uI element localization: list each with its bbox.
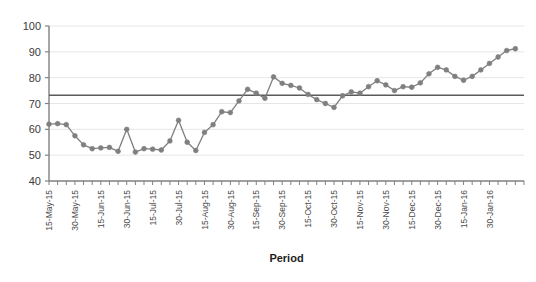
data-point (288, 83, 293, 88)
data-point (375, 78, 380, 83)
chart-container: 40506070809010015-May-1530-May-1515-Jun-… (0, 0, 536, 282)
data-point (314, 97, 319, 102)
x-tick-label-15: 30-Dec-15 (433, 190, 443, 230)
data-point (81, 142, 86, 147)
data-point (358, 91, 363, 96)
x-tick-label-13: 30-Nov-15 (381, 190, 391, 230)
data-point (297, 86, 302, 91)
data-point (245, 87, 250, 92)
x-tick-label-6: 15-Aug-15 (200, 190, 210, 230)
data-point (453, 74, 458, 79)
y-tick-label-100: 100 (23, 20, 41, 32)
data-point (150, 147, 155, 152)
data-point (349, 89, 354, 94)
data-point (444, 68, 449, 73)
x-tick-label-10: 15-Oct-15 (303, 190, 313, 228)
data-point (228, 110, 233, 115)
data-point (340, 93, 345, 98)
data-point (64, 122, 69, 127)
data-point (306, 92, 311, 97)
x-tick-label-5: 30-Jul-15 (174, 190, 184, 226)
data-point (470, 74, 475, 79)
data-point (263, 96, 268, 101)
data-point (392, 88, 397, 93)
gridlines (49, 26, 524, 155)
data-point (254, 91, 259, 96)
data-point (332, 105, 337, 110)
data-point (280, 81, 285, 86)
data-point (435, 65, 440, 70)
x-tick-label-7: 30-Aug-15 (226, 190, 236, 230)
data-point (142, 146, 147, 151)
y-tick-label-50: 50 (29, 149, 41, 161)
x-tick-label-1: 30-May-15 (70, 190, 80, 231)
series-line (49, 49, 515, 152)
x-axis-title: Period (269, 252, 303, 264)
data-point (383, 83, 388, 88)
data-point (55, 121, 60, 126)
line-chart-plot: 40506070809010015-May-1530-May-1515-Jun-… (0, 0, 536, 282)
x-tick-label-11: 30-Oct-15 (329, 190, 339, 228)
y-tick-label-70: 70 (29, 98, 41, 110)
data-point (47, 122, 52, 127)
data-point (487, 61, 492, 66)
data-point (496, 55, 501, 60)
data-point (98, 146, 103, 151)
x-tick-label-17: 30-Jan-16 (485, 190, 495, 229)
x-tick-label-16: 15-Jan-16 (459, 190, 469, 229)
series-markers (47, 46, 518, 154)
x-axis-ticks: 15-May-1530-May-1515-Jun-1530-Jun-1515-J… (44, 181, 524, 231)
data-point (107, 145, 112, 150)
data-point (176, 118, 181, 123)
data-point (478, 68, 483, 73)
data-point (409, 85, 414, 90)
x-tick-label-9: 30-Sep-15 (277, 190, 287, 230)
data-point (202, 130, 207, 135)
x-tick-label-8: 15-Sep-15 (251, 190, 261, 230)
data-point (219, 109, 224, 114)
data-point (133, 150, 138, 155)
y-tick-label-80: 80 (29, 72, 41, 84)
data-point (427, 71, 432, 76)
data-point (168, 139, 173, 144)
x-tick-label-14: 15-Dec-15 (407, 190, 417, 230)
data-point (211, 122, 216, 127)
data-point (159, 148, 164, 153)
data-point (237, 99, 242, 104)
y-tick-label-60: 60 (29, 123, 41, 135)
x-tick-label-0: 15-May-15 (44, 190, 54, 231)
data-point (461, 78, 466, 83)
y-axis-ticks: 405060708090100 (23, 20, 49, 187)
data-point (513, 46, 518, 51)
data-point (366, 84, 371, 89)
x-tick-label-2: 15-Jun-15 (96, 190, 106, 229)
x-tick-label-4: 15-Jul-15 (148, 190, 158, 226)
data-point (185, 140, 190, 145)
data-point (418, 80, 423, 85)
data-point (401, 84, 406, 89)
data-point (323, 101, 328, 106)
y-tick-label-90: 90 (29, 46, 41, 58)
data-point (504, 48, 509, 53)
data-point (271, 74, 276, 79)
data-point (124, 127, 129, 132)
data-point (116, 149, 121, 154)
x-tick-label-3: 30-Jun-15 (122, 190, 132, 229)
data-point (193, 148, 198, 153)
y-tick-label-40: 40 (29, 175, 41, 187)
x-tick-label-12: 15-Nov-15 (355, 190, 365, 230)
data-point (90, 146, 95, 151)
data-point (73, 133, 78, 138)
